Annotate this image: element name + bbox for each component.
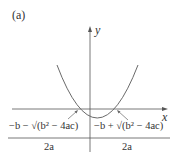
parabola-diagram bbox=[0, 0, 181, 160]
y-axis-label: y bbox=[95, 24, 100, 36]
y-axis-arrow-icon bbox=[88, 26, 92, 32]
right-root-numerator: −b + √(b² − 4ac) bbox=[94, 121, 163, 132]
right-root-denominator: 2a bbox=[122, 142, 132, 153]
panel-label: (a) bbox=[12, 9, 25, 21]
left-root-denominator: 2a bbox=[44, 142, 54, 153]
parabola-curve bbox=[57, 65, 138, 118]
left-root-numerator: −b − √(b² − 4ac) bbox=[9, 121, 78, 132]
